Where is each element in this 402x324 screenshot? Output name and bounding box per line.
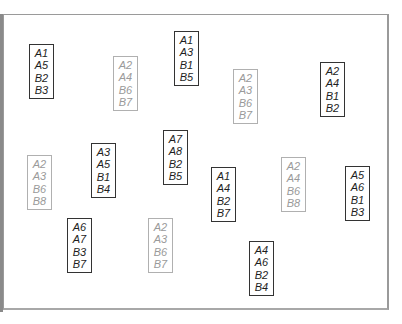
card-label: B2 bbox=[217, 195, 230, 208]
card-label: A2 bbox=[33, 158, 46, 171]
card-label: B2 bbox=[35, 72, 48, 85]
card-label: B2 bbox=[169, 158, 182, 171]
card-label: A8 bbox=[169, 145, 182, 158]
card-label: A3 bbox=[180, 46, 193, 59]
card-label: B8 bbox=[287, 197, 300, 210]
card-label: A4 bbox=[326, 77, 339, 90]
card-label: A4 bbox=[217, 182, 230, 195]
card-label: A6 bbox=[73, 221, 86, 234]
card-label: A5 bbox=[351, 169, 364, 182]
card-label: A6 bbox=[351, 181, 364, 194]
label-card: A2A4B1B2 bbox=[320, 62, 345, 117]
label-card: A7A8B2B5 bbox=[163, 130, 188, 185]
card-label: B3 bbox=[351, 206, 364, 219]
card-label: A1 bbox=[180, 34, 193, 47]
label-card: A2A3B6B8 bbox=[27, 155, 52, 210]
label-card: A2A3B6B7 bbox=[233, 69, 258, 124]
card-label: A1 bbox=[35, 47, 48, 60]
card-label: A2 bbox=[154, 221, 167, 234]
card-label: B2 bbox=[326, 102, 339, 115]
card-label: B7 bbox=[73, 258, 86, 271]
card-label: B2 bbox=[255, 269, 268, 282]
card-label: A6 bbox=[255, 256, 268, 269]
card-label: A1 bbox=[217, 170, 230, 183]
card-label: B4 bbox=[255, 281, 268, 294]
label-card: A2A4B6B7 bbox=[113, 56, 138, 111]
card-label: B6 bbox=[33, 183, 46, 196]
card-label: B7 bbox=[239, 109, 252, 122]
card-label: B7 bbox=[217, 207, 230, 220]
card-label: A3 bbox=[97, 146, 110, 159]
card-label: A2 bbox=[326, 65, 339, 78]
card-label: A3 bbox=[33, 170, 46, 183]
card-label: A7 bbox=[73, 233, 86, 246]
card-label: B1 bbox=[351, 194, 364, 207]
card-label: B3 bbox=[35, 84, 48, 97]
card-label: A2 bbox=[287, 160, 300, 173]
card-label: A4 bbox=[287, 172, 300, 185]
label-card: A6A7B3B7 bbox=[67, 218, 92, 273]
card-label: B4 bbox=[97, 183, 110, 196]
card-label: A5 bbox=[35, 59, 48, 72]
card-label: A7 bbox=[169, 133, 182, 146]
card-label: A4 bbox=[119, 71, 132, 84]
label-card: A2A3B6B7 bbox=[148, 218, 173, 273]
label-card: A5A6B1B3 bbox=[345, 166, 370, 221]
card-label: B8 bbox=[33, 195, 46, 208]
card-label: B6 bbox=[119, 84, 132, 97]
card-label: A3 bbox=[154, 233, 167, 246]
label-card: A2A4B6B8 bbox=[281, 157, 306, 212]
card-label: B6 bbox=[287, 185, 300, 198]
card-label: B1 bbox=[97, 171, 110, 184]
card-label: A3 bbox=[239, 84, 252, 97]
card-label: B6 bbox=[239, 97, 252, 110]
card-label: B1 bbox=[326, 90, 339, 103]
card-label: B1 bbox=[180, 59, 193, 72]
card-label: A2 bbox=[119, 59, 132, 72]
card-label: B3 bbox=[73, 246, 86, 259]
card-label: B7 bbox=[119, 96, 132, 109]
card-label: B5 bbox=[169, 170, 182, 183]
label-card: A4A6B2B4 bbox=[249, 241, 274, 296]
card-label: B5 bbox=[180, 71, 193, 84]
label-card: A3A5B1B4 bbox=[91, 143, 116, 198]
card-label: A4 bbox=[255, 244, 268, 257]
label-card: A1A4B2B7 bbox=[211, 167, 236, 222]
label-card: A1A5B2B3 bbox=[29, 44, 54, 99]
label-card: A1A3B1B5 bbox=[174, 31, 199, 86]
card-label: B7 bbox=[154, 258, 167, 271]
card-label: B6 bbox=[154, 246, 167, 259]
card-label: A5 bbox=[97, 158, 110, 171]
card-label: A2 bbox=[239, 72, 252, 85]
